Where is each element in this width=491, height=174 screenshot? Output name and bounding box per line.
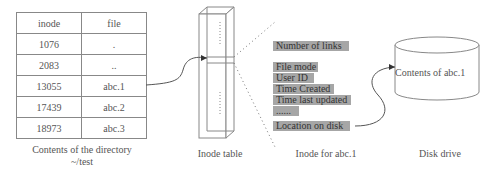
field-time-created: Time Created [273, 84, 334, 94]
disk-caption: Disk drive [410, 148, 470, 159]
field-file-mode: File mode [273, 62, 318, 72]
field-user-id: User ID [273, 73, 314, 83]
field-number-of-links: Number of links [273, 41, 349, 51]
disk-content-label: Contents of abc.1 [395, 67, 465, 78]
arrow-dir-to-inode [146, 57, 207, 85]
inode-table-caption: Inode table [190, 148, 250, 159]
field-location-on-disk: Location on disk [273, 121, 350, 131]
field-ellipsis: ...... [273, 106, 299, 116]
zoom-line-top [234, 22, 275, 57]
inode-table-column [199, 7, 234, 138]
zoom-line-bottom [234, 63, 275, 147]
field-time-last-updated: Time last updated [273, 95, 351, 105]
inode-caption: Inode for abc.1 [286, 148, 366, 159]
arrow-inode-to-disk [355, 67, 395, 126]
